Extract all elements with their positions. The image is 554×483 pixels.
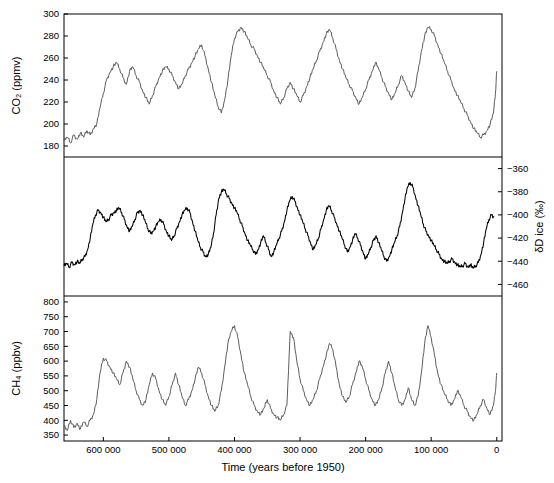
figure-panel: 180200220240260280300CO₂ (ppmv)−360−380−… [0, 0, 554, 483]
y-axis-label-ch4: CH₄ (ppbv) [10, 341, 22, 396]
y-tick-label: −400 [507, 209, 528, 220]
y-tick-label: 650 [43, 341, 59, 352]
panel-dD_ice: −360−380−400−420−440−460δD ice (‰) [64, 163, 545, 290]
y-axis-label-dD_ice: δD ice (‰) [533, 200, 545, 253]
y-tick-label: 750 [43, 311, 59, 322]
multi-panel-ice-core-chart: 180200220240260280300CO₂ (ppmv)−360−380−… [0, 0, 554, 483]
x-tick-label: 300 000 [283, 444, 317, 455]
panel-ch4: 350400450500550600650700750800CH₄ (ppbv) [10, 296, 497, 440]
x-tick-label: 500 000 [152, 444, 186, 455]
y-tick-label: 400 [43, 415, 59, 426]
y-tick-label: −420 [507, 232, 528, 243]
series-line-dD_ice [64, 182, 494, 268]
x-tick-label: 600 000 [86, 444, 120, 455]
y-tick-label: 260 [43, 52, 59, 63]
y-tick-label: 600 [43, 355, 59, 366]
y-tick-label: 350 [43, 429, 59, 440]
y-tick-label: −440 [507, 256, 528, 267]
y-tick-label: −460 [507, 279, 528, 290]
y-tick-label: 800 [43, 296, 59, 307]
x-tick-label: 0 [494, 444, 499, 455]
x-tick-label: 100 000 [414, 444, 448, 455]
y-tick-label: 280 [43, 30, 59, 41]
y-tick-label: 180 [43, 140, 59, 151]
x-tick-label: 200 000 [348, 444, 382, 455]
y-tick-label: 550 [43, 370, 59, 381]
y-tick-label: 240 [43, 74, 59, 85]
y-axis-label-co2: CO₂ (ppmv) [10, 56, 22, 114]
y-tick-label: 500 [43, 385, 59, 396]
y-tick-label: 200 [43, 118, 59, 129]
x-axis-label: Time (years before 1950) [221, 461, 344, 473]
y-tick-label: 300 [43, 8, 59, 19]
x-axis: 600 000500 000400 000300 000200 000100 0… [86, 437, 499, 473]
y-tick-label: 220 [43, 96, 59, 107]
y-tick-label: 700 [43, 326, 59, 337]
x-tick-label: 400 000 [217, 444, 251, 455]
y-tick-label: −380 [507, 186, 528, 197]
y-tick-label: 450 [43, 400, 59, 411]
panel-co2: 180200220240260280300CO₂ (ppmv) [10, 8, 497, 151]
series-line-ch4 [64, 326, 497, 431]
y-tick-label: −360 [507, 163, 528, 174]
series-line-co2 [64, 27, 497, 143]
